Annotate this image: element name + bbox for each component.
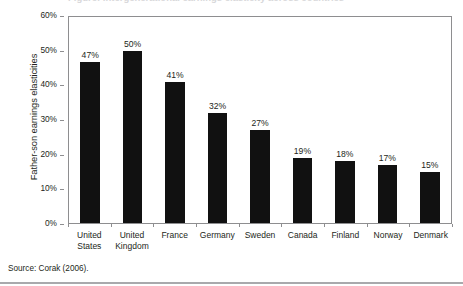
bar-slot: 32% (196, 17, 238, 223)
bar (335, 161, 355, 223)
source-note: Source: Corak (2006). (8, 264, 89, 273)
bottom-divider (0, 282, 463, 284)
bar-value-label: 27% (239, 118, 281, 128)
bar-value-label: 50% (111, 39, 153, 49)
x-axis-ticks (68, 224, 452, 228)
bar (420, 172, 440, 224)
bar (80, 62, 100, 223)
bar-value-label: 19% (281, 146, 323, 156)
y-axis-tick-label: 40% (40, 79, 57, 89)
figure-title: Figure: Intergenerational earnings elast… (68, 0, 344, 3)
bar (293, 158, 313, 223)
bar-value-label: 17% (366, 153, 408, 163)
y-axis-tick-mark (60, 85, 64, 86)
x-axis-category-label: France (153, 230, 196, 241)
x-axis-tick-mark (367, 224, 368, 227)
y-axis-tick-label: 30% (40, 114, 57, 124)
y-axis-tick-mark (60, 189, 64, 190)
y-axis-tick-label: 0% (45, 218, 57, 228)
y-axis-tick-mark (60, 155, 64, 156)
bars-layer: 47%50%41%32%27%19%18%17%15% (69, 17, 451, 223)
y-axis-tick-mark (60, 120, 64, 121)
x-axis-category-label: Germany (196, 230, 239, 241)
x-axis-tick-mark (452, 224, 453, 227)
x-axis-tick-mark (153, 224, 154, 227)
y-axis-tick-mark (60, 16, 64, 17)
y-axis-tick-mark (60, 51, 64, 52)
figure-title-strip: Figure: Intergenerational earnings elast… (0, 0, 463, 7)
x-axis-category-label: Canada (281, 230, 324, 241)
x-axis-tick-mark (196, 224, 197, 227)
bar-slot: 15% (409, 17, 451, 223)
bar (208, 113, 228, 223)
x-axis-category-label: Sweden (239, 230, 282, 241)
bar (378, 165, 398, 223)
bar (165, 82, 185, 223)
bar-slot: 41% (154, 17, 196, 223)
bar-value-label: 18% (324, 149, 366, 159)
x-axis-category-label: United States (68, 230, 111, 251)
y-axis-tick-label: 10% (40, 183, 57, 193)
bar-slot: 50% (111, 17, 153, 223)
y-axis-tick-label: 20% (40, 149, 57, 159)
x-axis-tick-mark (409, 224, 410, 227)
x-axis-tick-mark (111, 224, 112, 227)
x-axis-labels: United StatesUnited KingdomFranceGermany… (68, 230, 452, 256)
bar-value-label: 47% (69, 50, 111, 60)
bar-slot: 27% (239, 17, 281, 223)
bar-slot: 17% (366, 17, 408, 223)
y-axis-tick-mark (60, 224, 64, 225)
x-axis-category-label: Norway (367, 230, 410, 241)
x-axis-category-label: Finland (324, 230, 367, 241)
bar-slot: 19% (281, 17, 323, 223)
bar-slot: 18% (324, 17, 366, 223)
bar-value-label: 15% (409, 160, 451, 170)
x-axis-category-label: Denmark (409, 230, 452, 241)
bar-value-label: 41% (154, 70, 196, 80)
bar (250, 130, 270, 223)
x-axis-tick-mark (68, 224, 69, 227)
x-axis-tick-mark (324, 224, 325, 227)
bar-slot: 47% (69, 17, 111, 223)
y-axis-tick-label: 60% (40, 10, 57, 20)
bar-value-label: 32% (196, 101, 238, 111)
y-axis-tick-label: 50% (40, 45, 57, 55)
bar (123, 51, 143, 223)
x-axis-tick-mark (281, 224, 282, 227)
x-axis-tick-mark (239, 224, 240, 227)
x-axis-category-label: United Kingdom (111, 230, 154, 251)
